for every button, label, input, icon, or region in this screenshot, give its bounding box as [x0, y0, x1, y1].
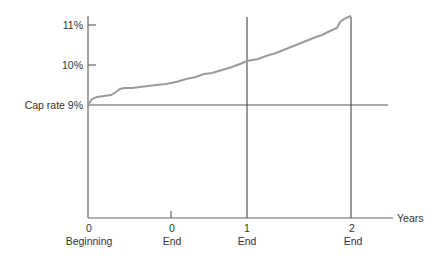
x-label-1-end-top: 1 [244, 222, 250, 234]
y-label-11: 11% [63, 19, 83, 31]
x-label-2-end-bottom: End [344, 235, 363, 247]
x-axis-label: Years [397, 212, 423, 224]
cap-rate-chart: 11% 10% Cap rate 9% 0 Beginning 0 End 1 … [0, 0, 443, 258]
y-label-10: 10% [62, 59, 83, 71]
x-label-2-end-top: 2 [349, 222, 355, 234]
x-label-0-beginning-top: 0 [86, 222, 92, 234]
x-label-0-end-bottom: End [163, 235, 182, 247]
y-label-cap-rate: Cap rate 9% [25, 99, 83, 111]
cap-rate-path-line [88, 16, 351, 105]
x-label-1-end-bottom: End [238, 235, 257, 247]
x-label-0-beginning-bottom: Beginning [66, 235, 113, 247]
x-label-0-end-top: 0 [169, 222, 175, 234]
